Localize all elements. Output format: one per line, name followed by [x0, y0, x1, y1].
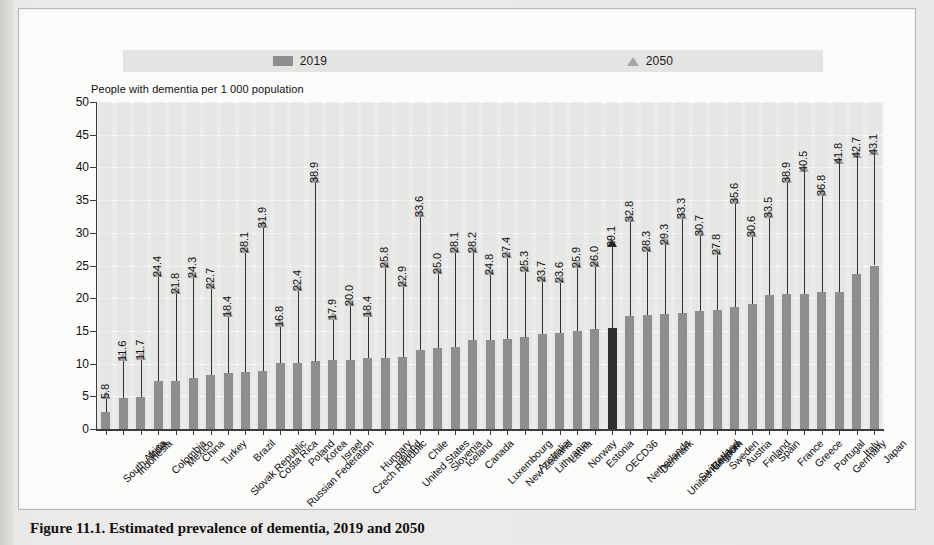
- x-axis-tick: [455, 430, 456, 435]
- data-label-2050: 28.1: [448, 232, 460, 253]
- data-label-2050: 30.6: [745, 216, 757, 237]
- bar-2019: [224, 373, 233, 429]
- bar-2019: [119, 398, 128, 429]
- bar-2019: [346, 360, 355, 429]
- y-axis-tick-label: 0: [59, 423, 89, 435]
- data-label-2050: 31.9: [256, 207, 268, 228]
- figure-caption: Figure 11.1. Estimated prevalence of dem…: [30, 520, 425, 537]
- bar-2019: [189, 378, 198, 429]
- legend-label-2050: 2050: [646, 54, 674, 68]
- arrow-stem-2050: [350, 305, 351, 359]
- y-axis-tick-label: 20: [59, 292, 89, 304]
- x-axis-tick: [141, 430, 142, 435]
- arrow-stem-2050: [560, 282, 561, 333]
- x-axis-tick: [193, 430, 194, 435]
- arrow-stem-2050: [700, 235, 701, 311]
- x-axis-tick: [420, 430, 421, 435]
- legend-triangle-marker-icon: [627, 57, 639, 66]
- bar-2019: [765, 295, 774, 429]
- data-label-2050: 21.8: [169, 273, 181, 294]
- data-label-2050: 29.1: [605, 226, 617, 247]
- bar-2019: [695, 311, 704, 429]
- legend-swatch-bar-icon: [273, 56, 293, 66]
- data-label-2050: 33.6: [413, 196, 425, 217]
- x-axis-tick: [228, 430, 229, 435]
- arrow-stem-2050: [123, 360, 124, 397]
- x-axis-tick: [245, 430, 246, 435]
- column-stripe: [99, 102, 112, 429]
- arrow-stem-2050: [647, 251, 648, 315]
- bar-2019: [451, 347, 460, 429]
- bar-2019: [363, 358, 372, 429]
- bar-2019: [206, 375, 215, 429]
- x-axis-tick: [735, 430, 736, 435]
- x-axis-tick: [752, 430, 753, 435]
- y-axis-tick: [90, 167, 97, 168]
- data-label-2050: 11.7: [134, 340, 146, 360]
- data-label-2050: 11.6: [116, 341, 128, 361]
- data-label-2050: 18.4: [221, 296, 233, 317]
- y-axis-tick-label: 25: [59, 260, 89, 272]
- bar-2019: [416, 350, 425, 429]
- data-label-2050: 25.0: [431, 252, 443, 273]
- x-axis-tick: [595, 430, 596, 435]
- arrow-stem-2050: [787, 182, 788, 295]
- x-axis-tick: [106, 430, 107, 435]
- x-axis-tick: [665, 430, 666, 435]
- x-axis-tick: [700, 430, 701, 435]
- arrow-stem-2050: [438, 273, 439, 348]
- arrow-stem-2050: [525, 271, 526, 338]
- x-axis-tick: [403, 430, 404, 435]
- bar-2019: [468, 340, 477, 429]
- x-axis-tick: [787, 430, 788, 435]
- bar-2019: [486, 340, 495, 429]
- y-axis-tick-label: 45: [59, 129, 89, 141]
- x-axis-tick: [298, 430, 299, 435]
- bar-2019: [503, 339, 512, 429]
- data-label-2050: 38.9: [308, 162, 320, 183]
- data-label-2050: 30.7: [693, 215, 705, 236]
- x-axis-category-label: Japan: [880, 437, 908, 465]
- x-axis-tick: [612, 430, 613, 435]
- bar-2019: [730, 307, 739, 429]
- data-label-2050: 27.4: [500, 237, 512, 258]
- chart-legend: 2019 2050: [123, 50, 823, 72]
- x-axis-tick: [490, 430, 491, 435]
- arrow-stem-2050: [420, 216, 421, 350]
- data-label-2050: 25.9: [570, 247, 582, 268]
- arrow-stem-2050: [542, 281, 543, 334]
- bar-2019: [835, 292, 844, 429]
- arrow-stem-2050: [507, 257, 508, 340]
- x-axis-tick: [769, 430, 770, 435]
- data-label-2050: 35.6: [728, 183, 740, 204]
- arrow-stem-2050: [176, 293, 177, 380]
- data-label-2050: 28.3: [640, 231, 652, 252]
- bar-2019: [782, 294, 791, 429]
- arrow-stem-2050: [193, 277, 194, 378]
- x-axis-tick: [839, 430, 840, 435]
- y-axis-tick: [90, 102, 97, 103]
- arrow-stem-2050: [280, 326, 281, 363]
- bar-2019: [136, 397, 145, 429]
- x-axis-tick: [717, 430, 718, 435]
- x-axis-tick: [525, 430, 526, 435]
- page-left-edge-shadow: [0, 0, 14, 545]
- x-axis-tick: [438, 430, 439, 435]
- y-axis-tick: [90, 135, 97, 136]
- legend-label-2019: 2019: [300, 54, 328, 68]
- x-axis-tick: [857, 430, 858, 435]
- data-label-2050: 32.8: [623, 201, 635, 222]
- y-axis-tick: [90, 266, 97, 267]
- x-axis-tick: [874, 430, 875, 435]
- data-label-2050: 24.4: [151, 256, 163, 277]
- arrow-stem-2050: [263, 227, 264, 371]
- bar-2019: [678, 313, 687, 429]
- arrow-stem-2050: [665, 244, 666, 314]
- data-label-2050: 28.1: [238, 232, 250, 253]
- data-label-2050: 16.8: [273, 306, 285, 327]
- x-axis-tick: [385, 430, 386, 435]
- arrow-stem-2050: [752, 236, 753, 304]
- data-label-2050: 5.8: [99, 384, 111, 399]
- data-label-2050: 22.9: [396, 266, 408, 287]
- bar-2019: [748, 304, 757, 429]
